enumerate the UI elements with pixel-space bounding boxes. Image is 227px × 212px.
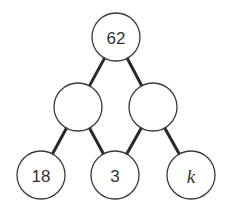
edge-middle-right-to-bottom-right: [165, 128, 180, 154]
node-top: 62: [92, 13, 140, 61]
node-middle-right: [129, 83, 177, 131]
node-circle: [54, 83, 102, 131]
node-bottom-middle: 3: [91, 151, 139, 199]
edge-middle-left-to-bottom-left: [52, 128, 66, 154]
nodes-group: 62183k: [17, 13, 215, 199]
node-label: 3: [110, 167, 119, 186]
node-label: k: [187, 166, 196, 187]
tree-diagram: 62183k: [0, 0, 227, 212]
node-bottom-right: k: [167, 151, 215, 199]
node-label: 62: [107, 29, 126, 48]
edge-middle-right-to-bottom-middle: [127, 128, 142, 154]
edge-top-to-middle-right: [127, 58, 142, 86]
node-label: 18: [32, 167, 51, 186]
node-bottom-left: 18: [17, 151, 65, 199]
edge-top-to-middle-left: [89, 58, 104, 86]
node-middle-left: [54, 83, 102, 131]
edge-middle-left-to-bottom-middle: [89, 128, 103, 154]
node-circle: [129, 83, 177, 131]
